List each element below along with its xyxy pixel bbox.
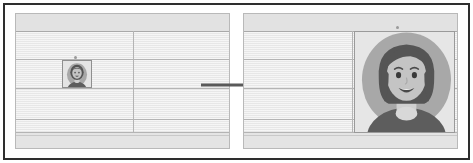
after-spreadsheet[interactable] bbox=[243, 13, 458, 149]
cell-handle-dot bbox=[74, 56, 77, 59]
screenshot-root bbox=[0, 0, 473, 163]
before-spreadsheet[interactable] bbox=[15, 13, 230, 149]
profile-thumbnail-cell[interactable] bbox=[62, 60, 92, 88]
grid-row-line bbox=[16, 88, 229, 89]
grid-column-line bbox=[133, 31, 134, 133]
cell-handle-dot bbox=[396, 26, 399, 29]
grid-row-line bbox=[16, 135, 229, 136]
sheet-surface-before bbox=[16, 14, 229, 148]
sheet-header-row-before bbox=[16, 14, 229, 32]
grid-row-line bbox=[16, 59, 229, 60]
grid-row-line bbox=[16, 119, 229, 120]
profile-picture-cell[interactable] bbox=[354, 31, 455, 133]
sheet-header-row-after bbox=[244, 14, 457, 32]
outer-frame bbox=[3, 3, 470, 160]
grid-row-line bbox=[244, 135, 457, 136]
grid-column-line bbox=[352, 31, 353, 133]
profile-thumbnail bbox=[63, 61, 91, 87]
profile-picture-large bbox=[355, 32, 454, 132]
